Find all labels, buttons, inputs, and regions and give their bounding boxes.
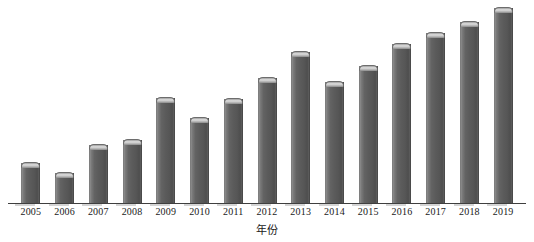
bar-top-cap — [224, 98, 243, 104]
tick-slot: 2006 — [48, 205, 82, 219]
bar-slot — [115, 0, 149, 203]
bar-slot — [318, 0, 352, 203]
tick-slot: 2018 — [453, 205, 487, 219]
tick-slot: 2015 — [351, 205, 385, 219]
tick-label-2007: 2007 — [81, 205, 115, 219]
bar[interactable] — [21, 163, 40, 203]
bar-top-cap — [325, 81, 344, 87]
bar-top-cap — [89, 144, 108, 150]
bar-slot — [419, 0, 453, 203]
bar[interactable] — [392, 44, 411, 203]
bar[interactable] — [89, 145, 108, 203]
tick-slot: 2008 — [115, 205, 149, 219]
bar-chart: 2005200620072008200920102011201220132014… — [0, 0, 534, 242]
bar-top-cap — [426, 32, 445, 38]
bar-slot — [183, 0, 217, 203]
tick-label-2009: 2009 — [149, 205, 183, 219]
tick-label-2016: 2016 — [385, 205, 419, 219]
tick-label-2011: 2011 — [216, 205, 250, 219]
x-axis-title: 年份 — [0, 221, 534, 237]
bar-slot — [250, 0, 284, 203]
tick-slot: 2009 — [149, 205, 183, 219]
tick-label-2008: 2008 — [115, 205, 149, 219]
bar[interactable] — [426, 33, 445, 203]
tick-slot: 2011 — [216, 205, 250, 219]
bar-top-cap — [258, 77, 277, 83]
bar[interactable] — [55, 173, 74, 203]
tick-label-2017: 2017 — [419, 205, 453, 219]
bar-slot — [385, 0, 419, 203]
tick-label-2015: 2015 — [351, 205, 385, 219]
tick-slot: 2016 — [385, 205, 419, 219]
bar-slot — [14, 0, 48, 203]
bar[interactable] — [494, 8, 513, 203]
tick-slot: 2012 — [250, 205, 284, 219]
tick-label-2005: 2005 — [14, 205, 48, 219]
bar-top-cap — [392, 43, 411, 49]
tick-label-2018: 2018 — [453, 205, 487, 219]
tick-slot: 2005 — [14, 205, 48, 219]
tick-label-2013: 2013 — [284, 205, 318, 219]
bars-layer — [0, 0, 534, 204]
bar-top-cap — [21, 162, 40, 168]
bar-top-cap — [291, 51, 310, 57]
bar[interactable] — [190, 118, 209, 203]
tick-slot: 2013 — [284, 205, 318, 219]
bar[interactable] — [258, 78, 277, 203]
bar-slot — [284, 0, 318, 203]
bar-slot — [453, 0, 487, 203]
bar[interactable] — [123, 140, 142, 203]
bar-slot — [351, 0, 385, 203]
tick-slot: 2007 — [81, 205, 115, 219]
bar-slot — [486, 0, 520, 203]
tick-slot: 2010 — [183, 205, 217, 219]
bar[interactable] — [359, 66, 378, 203]
tick-label-2019: 2019 — [486, 205, 520, 219]
bar-top-cap — [55, 172, 74, 178]
bar-top-cap — [190, 117, 209, 123]
tick-label-2014: 2014 — [318, 205, 352, 219]
tick-slot: 2019 — [486, 205, 520, 219]
bar-slot — [48, 0, 82, 203]
bar[interactable] — [325, 82, 344, 203]
tick-slot: 2017 — [419, 205, 453, 219]
x-axis-line — [8, 203, 526, 204]
bar-top-cap — [123, 139, 142, 145]
tick-label-2006: 2006 — [48, 205, 82, 219]
plot-area — [0, 0, 534, 204]
bar-slot — [81, 0, 115, 203]
bar[interactable] — [460, 22, 479, 203]
bar-slot — [149, 0, 183, 203]
x-axis-tick-labels: 2005200620072008200920102011201220132014… — [0, 205, 534, 219]
bar-slot — [216, 0, 250, 203]
bar[interactable] — [224, 99, 243, 203]
bar[interactable] — [156, 98, 175, 203]
bar[interactable] — [291, 52, 310, 203]
tick-slot: 2014 — [318, 205, 352, 219]
bar-top-cap — [494, 7, 513, 13]
bar-top-cap — [460, 21, 479, 27]
bar-top-cap — [156, 97, 175, 103]
tick-label-2010: 2010 — [183, 205, 217, 219]
tick-label-2012: 2012 — [250, 205, 284, 219]
bar-top-cap — [359, 65, 378, 71]
